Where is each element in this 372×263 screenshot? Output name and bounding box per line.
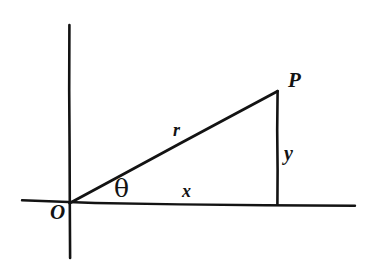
axes-group: [22, 25, 355, 258]
point-p-label: P: [288, 70, 301, 91]
theta-angle-label: θ: [114, 176, 129, 201]
origin-label: O: [50, 202, 65, 223]
x-leg-label: x: [182, 182, 191, 200]
figure-canvas: O P r x y θ: [0, 0, 372, 263]
y-leg-label: y: [284, 143, 293, 163]
radius-label: r: [173, 121, 180, 139]
triangle-group: [70, 91, 278, 205]
hypotenuse-line: [70, 91, 278, 203]
y-axis-line: [69, 25, 70, 258]
